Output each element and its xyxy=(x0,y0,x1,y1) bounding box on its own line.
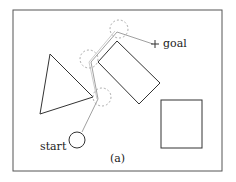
waypoint-circle xyxy=(80,50,98,68)
start-circle xyxy=(69,132,85,148)
goal-label: goal xyxy=(163,37,187,50)
motion-planning-diagram: goal start (a) xyxy=(0,0,236,182)
rotated-rectangle-obstacle xyxy=(98,41,160,104)
triangle-obstacle xyxy=(40,54,93,114)
start-label: start xyxy=(40,140,67,153)
square-obstacle xyxy=(161,100,202,148)
path-offset xyxy=(89,31,115,99)
goal-marker-icon xyxy=(151,40,159,48)
waypoint-circle xyxy=(110,20,128,38)
caption-label: (a) xyxy=(110,152,125,165)
